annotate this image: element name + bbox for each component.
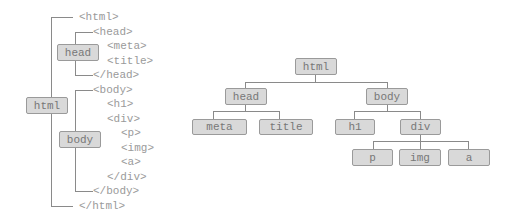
code-line: </head> [93, 68, 139, 82]
node-body: body [366, 88, 408, 105]
node-head: head [225, 88, 267, 105]
connector [354, 111, 355, 119]
connector [373, 141, 374, 149]
code-line: <meta> [107, 39, 147, 53]
node-img: img [399, 149, 441, 166]
code-line: </html> [79, 199, 125, 213]
connector [213, 111, 279, 112]
code-line: <head> [93, 25, 133, 39]
body-bracket-bottom [75, 191, 93, 192]
code-line: </body> [93, 184, 139, 198]
connector [354, 111, 420, 112]
code-line: <html> [79, 10, 119, 24]
connector [279, 111, 280, 119]
code-line: </div> [107, 170, 147, 184]
code-line: <body> [93, 83, 133, 97]
code-line: <div> [107, 112, 140, 126]
connector [420, 111, 421, 119]
node-p: p [352, 149, 393, 166]
node-meta: meta [192, 119, 247, 135]
node-a: a [448, 149, 490, 166]
code-line: <p> [121, 126, 141, 140]
head-label-box: head [57, 44, 99, 61]
connector [468, 141, 469, 149]
body-bracket-top [75, 90, 93, 91]
code-line: <title> [107, 54, 153, 68]
head-bracket-bottom [75, 75, 93, 76]
connector [420, 141, 421, 149]
html-label-box: html [26, 97, 68, 114]
code-line: <img> [121, 141, 154, 155]
connector [245, 104, 246, 111]
head-bracket-top [75, 32, 93, 33]
connector [245, 82, 387, 83]
code-line: <a> [121, 155, 141, 169]
node-div: div [400, 119, 441, 135]
connector [387, 104, 388, 111]
html-bracket-top [51, 17, 73, 18]
body-label-box: body [59, 131, 101, 148]
connector [213, 111, 214, 119]
node-title: title [259, 119, 313, 135]
node-h1: h1 [335, 119, 375, 135]
code-line: <h1> [107, 97, 133, 111]
node-html: html [295, 58, 337, 75]
html-bracket-bottom [51, 206, 73, 207]
